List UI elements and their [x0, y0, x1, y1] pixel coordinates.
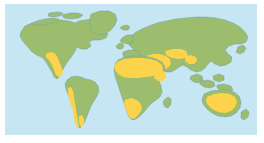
- world-map-canvas: [5, 4, 257, 135]
- world-map-figure: Land Arid / desert region Ocean: [0, 0, 264, 143]
- map-frame: [5, 4, 257, 135]
